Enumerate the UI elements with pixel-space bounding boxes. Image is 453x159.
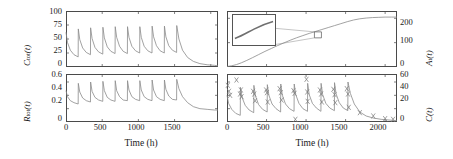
- ytick-c-40: 40: [400, 81, 424, 91]
- axis-label-c-tot-main: C: [22, 60, 32, 66]
- panel-r-tot-plot: [66, 74, 218, 122]
- ytick-rtot-04: 0.4: [34, 82, 62, 92]
- ytick-at-100: 100: [400, 35, 424, 45]
- xaxis-label-right: Time (h): [257, 138, 367, 148]
- xtick-right-0: 0: [216, 122, 238, 132]
- xtick-left-1000: 1000: [119, 122, 153, 132]
- axis-label-c: C(t): [424, 74, 434, 122]
- axis-label-c-arg: (t): [424, 107, 434, 116]
- xtick-left-1500: 1500: [155, 122, 189, 132]
- axis-label-c-main: C: [424, 116, 434, 122]
- panel-c-tot: [66, 11, 218, 67]
- xtick-right-2000: 2000: [361, 122, 395, 132]
- ytick-c-0: 0: [400, 113, 424, 123]
- ytick-at-200: 200: [400, 17, 424, 27]
- axis-label-r-tot-main: R: [22, 117, 32, 123]
- ytick-rtot-06: 0.6: [34, 69, 62, 79]
- ytick-ctot-100: 100: [36, 6, 62, 16]
- xtick-right-1000: 1000: [283, 122, 317, 132]
- figure-root: Ctot(t) 100 75 50 25 0 Rtot(t) 0.6 0.4 0…: [0, 0, 453, 159]
- panel-c-tot-plot: [66, 11, 218, 67]
- ytick-rtot-02: 0.2: [34, 95, 62, 105]
- xtick-right-500: 500: [248, 122, 278, 132]
- axis-label-a-t: At(t): [424, 12, 434, 66]
- ytick-c-20: 20: [400, 93, 424, 103]
- xtick-left-0: 0: [55, 122, 77, 132]
- ytick-ctot-75: 75: [36, 19, 62, 29]
- ytick-c-60: 60: [400, 69, 424, 79]
- axis-label-a-t-arg: (t): [424, 50, 434, 59]
- axis-label-a-t-main: A: [424, 61, 434, 67]
- xtick-left-500: 500: [85, 122, 115, 132]
- panel-c-plot: [227, 74, 397, 122]
- axis-label-c-tot-arg: (t): [22, 45, 32, 54]
- xtick-right-1500: 1500: [322, 122, 356, 132]
- axis-label-r-tot-arg: (t): [22, 101, 32, 110]
- inset-magnifier-curve: [233, 15, 275, 45]
- axis-label-c-tot-sub: tot: [24, 53, 31, 60]
- xaxis-label-left: Time (h): [86, 138, 196, 148]
- panel-a-t: [227, 11, 397, 67]
- axis-label-c-tot: Ctot(t): [22, 12, 32, 66]
- inset-magnifier-box: [232, 14, 276, 46]
- ytick-ctot-50: 50: [36, 32, 62, 42]
- panel-r-tot: [66, 74, 218, 122]
- ytick-ctot-0: 0: [36, 58, 62, 68]
- axis-label-r-tot-sub: tot: [24, 110, 31, 117]
- ytick-ctot-25: 25: [36, 45, 62, 55]
- ytick-at-0: 0: [400, 58, 424, 68]
- axis-label-r-tot: Rtot(t): [22, 74, 32, 122]
- panel-c: [227, 74, 397, 122]
